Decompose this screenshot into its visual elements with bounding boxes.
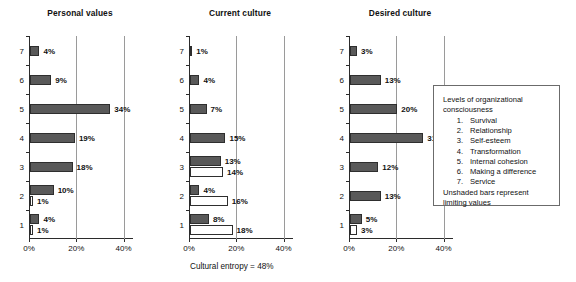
legend-item: 3.Self-esteem — [443, 136, 551, 146]
bar-shaded — [30, 75, 51, 85]
bar-value-label: 1% — [196, 46, 208, 55]
bar-value-label: 1% — [37, 197, 49, 206]
bar-shaded — [190, 46, 192, 56]
legend-footer: Unshaded bars represent limiting values — [443, 188, 551, 208]
legend-item-number: 4. — [443, 147, 470, 157]
bar-value-label: 12% — [382, 162, 398, 171]
x-axis-tick — [29, 239, 30, 242]
legend-footer-line1: Unshaded bars represent — [443, 188, 529, 197]
bar-shaded — [190, 75, 199, 85]
bar-shaded — [190, 214, 209, 224]
y-axis-tick-label: 3 — [20, 162, 24, 171]
legend-heading-line2: consciousness — [443, 105, 493, 114]
y-axis-tick — [346, 152, 349, 153]
y-axis-tick-label: 1 — [20, 220, 24, 229]
x-axis-tick — [349, 239, 350, 242]
legend-item-list: 1.Survival2.Relationship3.Self-esteem4.T… — [443, 116, 551, 187]
bar-value-label: 20% — [401, 104, 417, 113]
x-axis — [189, 238, 293, 239]
bar-value-label: 15% — [229, 133, 245, 142]
legend-item: 4.Transformation — [443, 147, 551, 157]
bar-shaded — [30, 133, 75, 143]
bar-shaded — [350, 162, 378, 172]
bar-shaded — [350, 133, 423, 143]
y-axis-tick-label: 6 — [340, 75, 344, 84]
bar-value-label: 5% — [366, 215, 378, 224]
legend-heading: Levels of organizational consciousness — [443, 95, 551, 115]
y-axis-tick — [346, 36, 349, 37]
x-axis-tick — [396, 239, 397, 242]
y-axis-tick — [186, 181, 189, 182]
y-axis-tick — [346, 94, 349, 95]
bar-shaded — [190, 185, 199, 195]
chart-figure: Personal values 0%20%40%14%1%210%1%318%4… — [0, 0, 576, 282]
y-axis-tick — [186, 210, 189, 211]
y-axis-tick-label: 2 — [340, 191, 344, 200]
bar-value-label: 4% — [203, 186, 215, 195]
bar-value-label: 13% — [385, 191, 401, 200]
y-axis-tick-label: 3 — [180, 162, 184, 171]
x-axis-tick-label: 20% — [68, 244, 84, 253]
x-axis-tick-label: 20% — [228, 244, 244, 253]
bar-value-label: 4% — [43, 46, 55, 55]
x-axis-tick-label: 40% — [276, 244, 292, 253]
bar-value-label: 3% — [361, 46, 373, 55]
y-axis-tick-label: 6 — [20, 75, 24, 84]
y-axis-tick-label: 4 — [20, 133, 24, 142]
x-axis-tick-label: 40% — [116, 244, 132, 253]
y-axis-tick — [186, 152, 189, 153]
x-axis-tick — [124, 239, 125, 242]
legend-item-label: Transformation — [470, 147, 521, 157]
bar-unshaded — [190, 196, 228, 206]
x-axis — [29, 238, 133, 239]
plot-area-personal-values: 0%20%40%14%1%210%1%318%419%534%69%74% — [29, 36, 133, 239]
y-axis-tick-label: 3 — [340, 162, 344, 171]
bar-shaded — [30, 46, 39, 56]
gridline — [76, 36, 77, 239]
gridline — [284, 36, 285, 239]
x-axis-tick-label: 20% — [388, 244, 404, 253]
y-axis-tick — [186, 94, 189, 95]
bar-value-label: 7% — [211, 104, 223, 113]
legend-item: 5.Internal cohesion — [443, 157, 551, 167]
bar-value-label: 4% — [43, 215, 55, 224]
y-axis-tick-label: 4 — [340, 133, 344, 142]
y-axis-tick-label: 1 — [340, 220, 344, 229]
bar-unshaded — [30, 225, 33, 235]
legend-item: 7.Service — [443, 177, 551, 187]
bar-unshaded — [350, 225, 357, 235]
legend-item: 2.Relationship — [443, 126, 551, 136]
chart-title-desired-culture: Desired culture — [320, 8, 480, 18]
chart-title-personal-values: Personal values — [0, 8, 160, 18]
legend-item-number: 6. — [443, 167, 470, 177]
bar-unshaded — [190, 167, 223, 177]
legend-heading-line1: Levels of organizational — [443, 95, 523, 104]
legend-item: 6.Making a difference — [443, 167, 551, 177]
bar-value-label: 10% — [58, 186, 74, 195]
y-axis-tick — [26, 94, 29, 95]
legend-item-label: Internal cohesion — [470, 157, 528, 167]
x-axis-tick-label: 0% — [23, 244, 35, 253]
y-axis-tick — [186, 36, 189, 37]
y-axis-tick — [346, 210, 349, 211]
y-axis-tick — [26, 181, 29, 182]
chart-title-current-culture: Current culture — [160, 8, 320, 18]
y-axis-tick-label: 2 — [180, 191, 184, 200]
bar-value-label: 1% — [37, 226, 49, 235]
annotation-cultural-entropy: Cultural entropy = 48% — [190, 262, 274, 271]
bar-shaded — [350, 75, 381, 85]
y-axis-tick-label: 5 — [180, 104, 184, 113]
bar-shaded — [30, 185, 54, 195]
y-axis-tick-label: 7 — [20, 46, 24, 55]
x-axis — [349, 238, 453, 239]
gridline — [124, 36, 125, 239]
y-axis-tick-label: 5 — [20, 104, 24, 113]
x-axis-tick-label: 0% — [343, 244, 355, 253]
y-axis-tick — [346, 65, 349, 66]
chart-panel-current-culture: Current culture 0%20%40%18%18%24%16%313%… — [160, 0, 320, 282]
legend-item-label: Relationship — [470, 126, 512, 136]
bar-value-label: 18% — [77, 162, 93, 171]
bar-value-label: 8% — [213, 215, 225, 224]
y-axis-tick-label: 4 — [180, 133, 184, 142]
legend-item-number: 1. — [443, 116, 470, 126]
